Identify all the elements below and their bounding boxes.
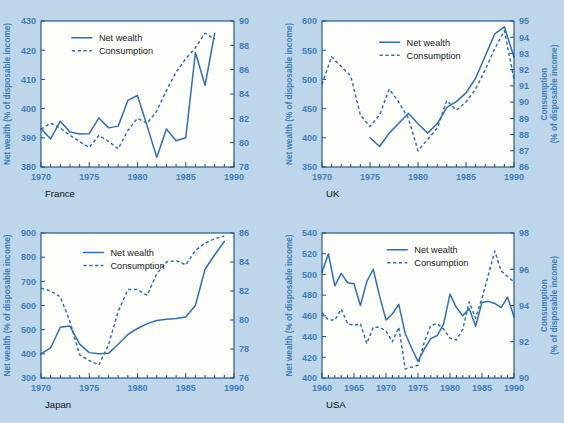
- y-tick-label-right: 82: [239, 286, 249, 296]
- y-tick-label-left: 380: [21, 162, 36, 172]
- x-tick-label: 1975: [79, 383, 99, 393]
- y-tick-label-left: 400: [302, 373, 317, 383]
- y-tick-label-right: 92: [519, 65, 529, 75]
- x-tick-label: 1975: [360, 172, 380, 182]
- y-tick-label-right: 84: [239, 89, 249, 99]
- x-tick-label: 1985: [472, 383, 492, 393]
- x-tick-label: 1985: [456, 172, 476, 182]
- chart-panel-japan: 3004005006007008009007678808284861970197…: [0, 211, 282, 423]
- x-tick-label: 1975: [408, 383, 428, 393]
- y-tick-label-right: 96: [519, 265, 529, 275]
- y-tick-label-right: 90: [519, 97, 529, 107]
- y-tick-label-left: 390: [21, 133, 36, 143]
- y-tick-label-right: 90: [239, 16, 249, 26]
- y-tick-label-left: 400: [21, 104, 36, 114]
- panel-title-france: France: [45, 188, 75, 199]
- y-tick-label-right: 80: [239, 315, 249, 325]
- y-tick-label-left: 600: [21, 301, 36, 311]
- x-tick-label: 1970: [31, 172, 51, 182]
- x-tick-label: 1970: [376, 383, 396, 393]
- panel-title-uk: UK: [326, 188, 340, 199]
- x-tick-label: 1985: [176, 383, 196, 393]
- y-tick-label-right: 86: [519, 162, 529, 172]
- y-tick-label-right: 94: [519, 301, 529, 311]
- legend-label-net-wealth: Net wealth: [110, 248, 153, 258]
- y-tick-label-right: 78: [239, 162, 249, 172]
- legend-label-net-wealth: Net wealth: [407, 38, 450, 48]
- y-tick-label-left: 600: [302, 16, 317, 26]
- y-tick-label-left: 400: [21, 349, 36, 359]
- y-tick-label-left: 500: [302, 75, 317, 85]
- legend-label-consumption: Consumption: [407, 51, 461, 61]
- left-axis-title: Net wealth (% of disposable income): [3, 234, 12, 376]
- legend-label-net-wealth: Net wealth: [414, 245, 457, 255]
- legend-label-consumption: Consumption: [110, 261, 164, 271]
- x-tick-label: 1980: [127, 383, 147, 393]
- y-tick-label-left: 550: [302, 46, 317, 56]
- y-tick-label-right: 93: [519, 49, 529, 59]
- y-tick-label-right: 84: [239, 257, 249, 267]
- y-tick-label-left: 500: [302, 270, 317, 280]
- y-tick-label-right: 88: [239, 41, 249, 51]
- y-tick-label-right: 80: [239, 138, 249, 148]
- y-tick-label-right: 89: [519, 114, 529, 124]
- right-axis-title-line1: Consumption: [540, 68, 549, 121]
- y-tick-label-right: 86: [239, 228, 249, 238]
- right-axis-title-line2: (% of disposable income): [550, 44, 559, 143]
- legend-label-consumption: Consumption: [414, 258, 468, 268]
- x-tick-label: 1970: [31, 383, 51, 393]
- y-tick-label-left: 420: [302, 353, 317, 363]
- panel-title-usa: USA: [326, 399, 346, 410]
- y-tick-label-right: 95: [519, 16, 529, 26]
- x-tick-label: 1980: [440, 383, 460, 393]
- x-tick-label: 1990: [504, 172, 524, 182]
- x-tick-label: 1980: [408, 172, 428, 182]
- y-tick-label-left: 900: [21, 228, 36, 238]
- y-tick-label-left: 400: [302, 133, 317, 143]
- chart-panel-france: 3803904004104204307880828486889019701975…: [0, 0, 282, 211]
- y-tick-label-left: 480: [302, 290, 317, 300]
- y-tick-label-left: 800: [21, 252, 36, 262]
- x-tick-label: 1960: [312, 383, 332, 393]
- left-axis-title: Net wealth (% of disposable income): [285, 23, 294, 165]
- figure-root: 3803904004104204307880828486889019701975…: [0, 0, 564, 423]
- y-tick-label-left: 500: [21, 325, 36, 335]
- legend-label-net-wealth: Net wealth: [99, 33, 142, 43]
- y-tick-label-right: 76: [239, 373, 249, 383]
- y-tick-label-left: 430: [21, 16, 36, 26]
- y-tick-label-right: 98: [519, 228, 529, 238]
- y-tick-label-right: 82: [239, 114, 249, 124]
- y-tick-label-right: 78: [239, 344, 249, 354]
- x-tick-label: 1990: [224, 383, 244, 393]
- x-tick-label: 1980: [127, 172, 147, 182]
- y-tick-label-right: 92: [519, 337, 529, 347]
- x-tick-label: 1990: [504, 383, 524, 393]
- y-tick-label-left: 300: [21, 373, 36, 383]
- y-tick-label-left: 410: [21, 75, 36, 85]
- chart-panel-uk: 3504004505005506008687888990919293949519…: [282, 0, 564, 211]
- y-tick-label-left: 440: [302, 332, 317, 342]
- legend-label-consumption: Consumption: [99, 46, 153, 56]
- panel-title-japan: Japan: [45, 399, 71, 410]
- y-tick-label-right: 94: [519, 33, 529, 43]
- chart-panel-usa: 4004204404604805005205409092949698196019…: [282, 211, 564, 423]
- x-tick-label: 1970: [312, 172, 332, 182]
- right-axis-title-line2: (% of disposable income): [550, 256, 559, 355]
- y-tick-label-left: 540: [302, 228, 317, 238]
- y-tick-label-right: 90: [519, 373, 529, 383]
- y-tick-label-right: 88: [519, 130, 529, 140]
- x-tick-label: 1975: [79, 172, 99, 182]
- x-tick-label: 1990: [224, 172, 244, 182]
- left-axis-title: Net wealth (% of disposable income): [285, 234, 294, 376]
- x-tick-label: 1965: [344, 383, 364, 393]
- right-axis-title-line1: Consumption: [540, 279, 549, 332]
- y-tick-label-left: 420: [21, 46, 36, 56]
- y-tick-label-left: 350: [302, 162, 317, 172]
- y-tick-label-right: 87: [519, 146, 529, 156]
- y-tick-label-right: 91: [519, 81, 529, 91]
- y-tick-label-left: 460: [302, 311, 317, 321]
- left-axis-title: Net wealth (% of disposable income): [3, 23, 12, 165]
- y-tick-label-left: 700: [21, 277, 36, 287]
- x-tick-label: 1985: [176, 172, 196, 182]
- y-tick-label-left: 520: [302, 249, 317, 259]
